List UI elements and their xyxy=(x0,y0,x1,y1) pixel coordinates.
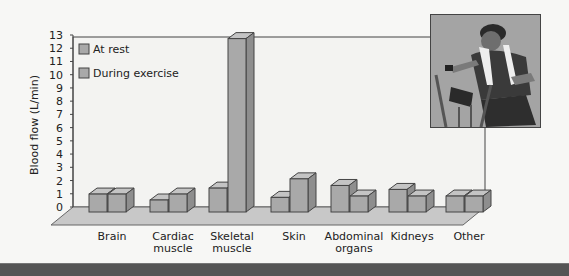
bar-during-exercise xyxy=(228,33,254,212)
x-tick-label: Other xyxy=(453,230,485,243)
legend-label: During exercise xyxy=(93,67,179,80)
bar-during-exercise xyxy=(108,188,134,212)
person-on-bike-image xyxy=(431,15,540,127)
bar-during-exercise xyxy=(465,190,491,212)
x-tick-label: Kidneys xyxy=(390,230,434,243)
y-tick-label: 0 xyxy=(56,201,63,214)
x-tick-label: Skin xyxy=(282,230,305,243)
y-tick-label: 3 xyxy=(56,161,63,174)
bar-during-exercise xyxy=(350,190,376,212)
x-tick-label: organs xyxy=(335,242,373,255)
y-axis: 012345678910111213 xyxy=(49,29,73,214)
bottom-divider-bar xyxy=(0,263,569,276)
y-tick-label: 6 xyxy=(56,122,63,135)
y-tick-label: 2 xyxy=(56,175,63,188)
y-tick-label: 5 xyxy=(56,135,63,148)
x-axis-labels: BrainCardiacmuscleSkeletalmuscleSkinAbdo… xyxy=(98,230,486,255)
plot-background xyxy=(73,37,485,207)
y-tick-label: 4 xyxy=(56,148,63,161)
y-tick-label: 11 xyxy=(49,55,63,68)
x-tick-label: muscle xyxy=(212,242,252,255)
legend-label: At rest xyxy=(93,43,130,56)
bar-during-exercise xyxy=(408,190,434,212)
y-tick-label: 10 xyxy=(49,69,63,82)
y-tick-label: 13 xyxy=(49,29,63,42)
y-axis-label: Blood flow (L/min) xyxy=(28,75,41,175)
legend-swatch xyxy=(79,44,89,54)
bar-during-exercise xyxy=(169,188,195,212)
y-tick-label: 7 xyxy=(56,108,63,121)
y-tick-label: 8 xyxy=(56,95,63,108)
y-tick-label: 12 xyxy=(49,42,63,55)
exercise-photo xyxy=(430,14,541,128)
x-tick-label: muscle xyxy=(153,242,193,255)
bar-during-exercise xyxy=(290,173,316,212)
x-tick-label: Brain xyxy=(98,230,127,243)
y-tick-label: 9 xyxy=(56,82,63,95)
y-tick-label: 1 xyxy=(56,188,63,201)
legend-swatch xyxy=(79,68,89,78)
